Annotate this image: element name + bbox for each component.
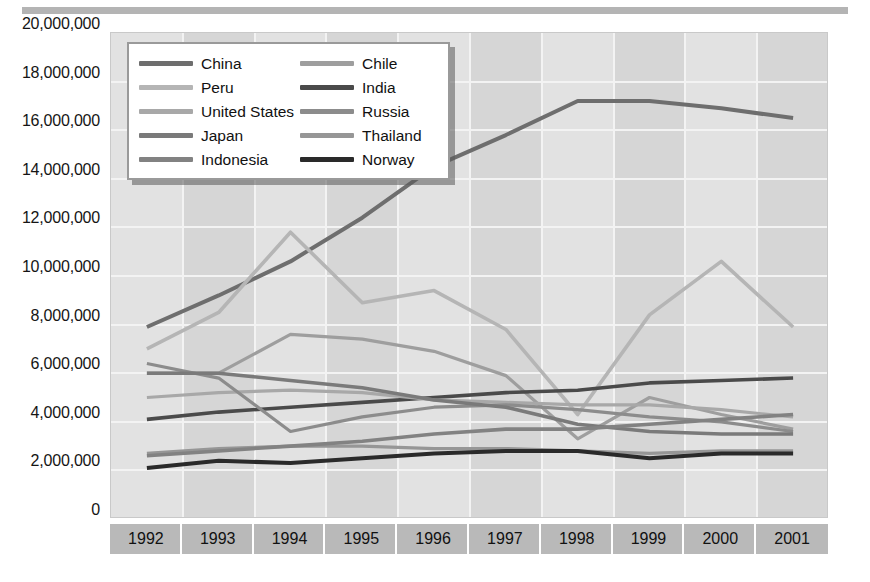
legend-item-label: Norway [362,152,415,167]
legend-line-swatch-icon [139,133,193,138]
x-axis-tick-label: 1995 [325,524,397,554]
legend-item-label: Japan [201,128,243,143]
series-line [147,451,793,468]
x-axis-tick-label: 1997 [469,524,541,554]
legend-item[interactable]: Indonesia [139,147,294,171]
legend-line-swatch-icon [300,85,354,90]
chart-legend: ChinaChilePeruIndiaUnited StatesRussiaJa… [127,42,450,180]
legend-item[interactable]: Russia [300,99,440,123]
series-line [147,334,793,438]
legend-line-swatch-icon [300,109,354,114]
y-axis-tick-label: 20,000,000 [22,16,100,32]
legend-item-label: Thailand [362,128,421,143]
legend-grid: ChinaChilePeruIndiaUnited StatesRussiaJa… [139,51,440,171]
legend-item[interactable]: Japan [139,123,294,147]
x-axis: 1992199319941995199619971998199920002001 [110,524,828,554]
legend-item-label: India [362,80,396,95]
x-axis-tick-label: 1996 [397,524,469,554]
y-axis: 02,000,0004,000,0006,000,0008,000,00010,… [0,24,106,518]
legend-item[interactable]: Norway [300,147,440,171]
y-axis-tick-label: 12,000,000 [22,210,100,226]
top-divider-rule [22,7,848,14]
series-line [147,232,793,414]
y-axis-tick-label: 14,000,000 [22,162,100,178]
x-axis-tick-label: 1993 [182,524,254,554]
y-axis-tick-label: 0 [91,502,100,518]
y-axis-tick-label: 6,000,000 [31,356,100,372]
legend-item-label: Chile [362,56,397,71]
y-axis-tick-label: 16,000,000 [22,113,100,129]
legend-item-label: Peru [201,80,234,95]
x-axis-tick-label: 1994 [254,524,326,554]
chart-page: 02,000,0004,000,0006,000,0008,000,00010,… [0,0,870,582]
legend-item[interactable]: Chile [300,51,440,75]
legend-item[interactable]: China [139,51,294,75]
legend-item[interactable]: United States [139,99,294,123]
x-axis-tick-label: 1999 [613,524,685,554]
y-axis-tick-label: 18,000,000 [22,65,100,81]
legend-line-swatch-icon [300,61,354,66]
legend-line-swatch-icon [139,109,193,114]
legend-line-swatch-icon [139,61,193,66]
x-axis-tick-label: 1998 [541,524,613,554]
legend-line-swatch-icon [300,157,354,162]
legend-item[interactable]: Thailand [300,123,440,147]
legend-item-label: Russia [362,104,409,119]
legend-line-swatch-icon [139,85,193,90]
legend-line-swatch-icon [300,133,354,138]
legend-item-label: United States [201,104,294,119]
legend-item[interactable]: India [300,75,440,99]
y-axis-tick-label: 2,000,000 [31,453,100,469]
y-axis-tick-label: 10,000,000 [22,259,100,275]
y-axis-tick-label: 8,000,000 [31,308,100,324]
x-axis-tick-label: 1992 [110,524,182,554]
legend-item[interactable]: Peru [139,75,294,99]
legend-item-label: China [201,56,242,71]
x-axis-tick-label: 2000 [684,524,756,554]
y-axis-tick-label: 4,000,000 [31,405,100,421]
legend-line-swatch-icon [139,157,193,162]
x-axis-tick-label: 2001 [756,524,828,554]
legend-item-label: Indonesia [201,152,268,167]
